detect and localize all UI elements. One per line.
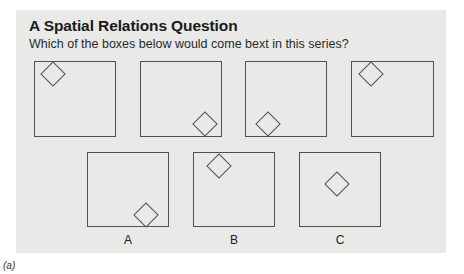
figure-caption: (a)	[3, 260, 15, 271]
option-box-a[interactable]	[87, 152, 169, 227]
figure-title: A Spatial Relations Question	[29, 17, 238, 35]
diamond-icon	[206, 153, 231, 178]
diamond-icon	[40, 61, 65, 86]
option-label-c: C	[330, 233, 350, 247]
series-box-2	[140, 61, 222, 137]
series-box-4	[351, 61, 434, 137]
diamond-icon	[133, 202, 158, 227]
diamond-icon	[358, 61, 383, 86]
diamond-icon	[192, 111, 217, 136]
option-box-c[interactable]	[299, 152, 381, 227]
diamond-icon	[324, 171, 349, 196]
series-box-1	[34, 61, 116, 137]
series-box-3	[245, 61, 327, 137]
diamond-icon	[255, 111, 280, 136]
question-text: Which of the boxes below would come bext…	[29, 37, 349, 51]
option-box-b[interactable]	[193, 152, 275, 227]
option-label-b: B	[224, 233, 244, 247]
option-label-a: A	[118, 233, 138, 247]
